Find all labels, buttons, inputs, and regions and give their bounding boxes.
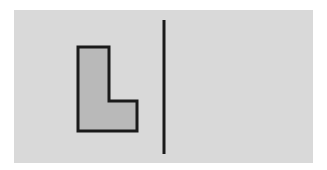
reflection-diagram xyxy=(0,0,327,170)
